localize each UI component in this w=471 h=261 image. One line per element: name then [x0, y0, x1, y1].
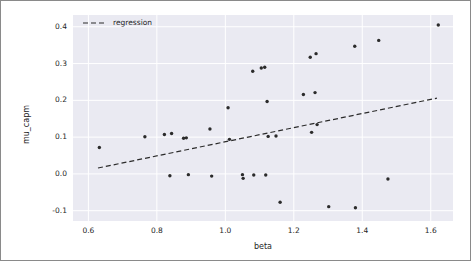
y-tick-label: 0.1	[35, 133, 67, 141]
y-tick-label: 0.3	[35, 60, 67, 68]
scatter-points	[98, 23, 440, 209]
y-tick-label: -0.1	[35, 207, 67, 215]
figure-canvas: 0.60.81.01.21.41.6-0.10.00.10.20.30.4 be…	[0, 0, 471, 261]
x-tick-label: 1.2	[274, 227, 314, 235]
y-tick-label: 0.2	[35, 96, 67, 104]
legend-entry-regression: regression	[113, 19, 152, 27]
x-axis-title: beta	[233, 243, 293, 251]
y-axis-title: mu_capm	[23, 105, 31, 144]
x-tick-label: 1.6	[411, 227, 451, 235]
y-tick-label: 0.0	[35, 170, 67, 178]
x-tick-label: 0.8	[137, 227, 177, 235]
regression-line	[98, 98, 437, 168]
gridlines	[73, 15, 453, 221]
y-tick-label: 0.4	[35, 23, 67, 31]
x-tick-label: 0.6	[68, 227, 108, 235]
plot-axes: 0.60.81.01.21.41.6-0.10.00.10.20.30.4 be…	[1, 1, 471, 261]
x-tick-label: 1.4	[342, 227, 382, 235]
plot-drawing-layer	[1, 1, 471, 261]
x-tick-label: 1.0	[205, 227, 245, 235]
